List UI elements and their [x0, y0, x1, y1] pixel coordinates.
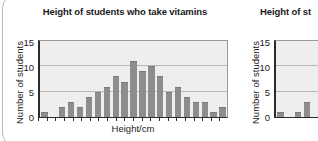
y-tick-0: 0: [254, 113, 270, 123]
x-tick: [116, 118, 125, 121]
bar-cell: [191, 41, 200, 117]
x-tick: [73, 118, 82, 121]
bar: [166, 92, 172, 117]
bar: [113, 76, 119, 117]
y-axis-label: Number of students: [14, 41, 25, 124]
x-tick: [81, 118, 90, 121]
bar-cell: [174, 41, 183, 117]
bar: [68, 102, 74, 117]
bar-cell: [285, 41, 294, 117]
bar: [193, 102, 199, 117]
bar-cell: [165, 41, 174, 117]
x-tick: [211, 118, 220, 121]
bar: [139, 71, 145, 117]
x-axis-ticks: [38, 118, 228, 121]
x-tick: [194, 118, 203, 121]
x-tick: [47, 118, 56, 121]
bar: [95, 92, 101, 117]
x-tick: [55, 118, 64, 121]
chart-no-vitamins: Height of st Number of students 15 10 5 …: [236, 0, 318, 141]
bar-cell: [58, 41, 67, 117]
bar-cell: [156, 41, 165, 117]
bar-cell: [85, 41, 94, 117]
x-tick: [98, 118, 107, 121]
bar: [77, 107, 83, 117]
y-tick-10: 10: [18, 63, 34, 73]
bar: [148, 66, 154, 117]
x-tick: [133, 118, 142, 121]
x-tick: [176, 118, 185, 121]
x-tick: [90, 118, 99, 121]
bar-cell: [40, 41, 49, 117]
bar-cell: [67, 41, 76, 117]
bar-cell: [102, 41, 111, 117]
x-tick: [107, 118, 116, 121]
y-tick-15: 15: [254, 38, 270, 48]
bar-cell: [294, 41, 303, 117]
bar: [304, 102, 310, 117]
bar: [59, 107, 65, 117]
y-tick-0: 0: [18, 113, 34, 123]
chart-vitamins: Height of students who take vitamins Num…: [0, 0, 236, 141]
bar-cell: [76, 41, 85, 117]
bar-cell: [138, 41, 147, 117]
x-tick: [150, 118, 159, 121]
bar: [86, 97, 92, 117]
y-tick-10: 10: [254, 63, 270, 73]
bar: [295, 112, 301, 117]
bar: [219, 107, 225, 117]
x-axis-label: Height/cm: [38, 123, 228, 134]
bar: [121, 82, 127, 117]
bar: [210, 112, 216, 117]
bar: [184, 97, 190, 117]
bar-cell: [200, 41, 209, 117]
x-tick: [159, 118, 168, 121]
bar-cell: [111, 41, 120, 117]
y-tick-5: 5: [254, 88, 270, 98]
bar: [157, 76, 163, 117]
bar: [175, 87, 181, 117]
y-axis-label: Number of students: [250, 41, 261, 124]
bar: [202, 102, 208, 117]
bar-series: [276, 41, 318, 117]
x-tick: [168, 118, 177, 121]
bar: [41, 112, 47, 117]
bar: [130, 61, 136, 117]
bar-cell: [276, 41, 285, 117]
chart-page: Height of students who take vitamins Num…: [0, 0, 318, 141]
x-tick: [219, 118, 228, 121]
bar-cell: [209, 41, 218, 117]
bar-series: [40, 41, 227, 117]
y-tick-5: 5: [18, 88, 34, 98]
x-tick: [142, 118, 151, 121]
bar-cell: [49, 41, 58, 117]
bar-cell: [312, 41, 318, 117]
chart-title: Height of st: [260, 6, 318, 17]
y-tick-15: 15: [18, 38, 34, 48]
bar-cell: [120, 41, 129, 117]
bar-cell: [183, 41, 192, 117]
bar-cell: [129, 41, 138, 117]
bar: [104, 87, 110, 117]
plot-area: [38, 40, 228, 118]
x-tick: [38, 118, 47, 121]
bar-cell: [303, 41, 312, 117]
plot-area: [274, 40, 318, 118]
bar-cell: [93, 41, 102, 117]
chart-title: Height of students who take vitamins: [20, 6, 230, 17]
x-tick: [64, 118, 73, 121]
x-tick: [124, 118, 133, 121]
x-tick: [185, 118, 194, 121]
bar-cell: [218, 41, 227, 117]
bar: [277, 112, 283, 117]
x-tick: [202, 118, 211, 121]
bar-cell: [147, 41, 156, 117]
